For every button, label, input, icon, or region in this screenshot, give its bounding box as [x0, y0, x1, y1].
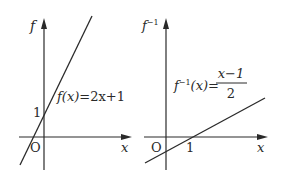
- left-equation-rhs: 2x+1: [90, 89, 125, 104]
- right-x-intercept-label: 1: [186, 140, 194, 155]
- right-plot: f−1 x O 1 f−1(x)= x−1 2: [141, 18, 268, 170]
- right-equation: f−1(x)= x−1 2: [173, 66, 247, 101]
- left-y-axis-arrow-icon: [41, 18, 47, 29]
- left-origin-label: O: [30, 140, 41, 155]
- function-inverse-diagram: f x O 1 f(x)=2x+1 f−1 x O 1 f−1(x)= x−1 …: [0, 0, 284, 179]
- right-equation-numerator: x−1: [218, 66, 245, 81]
- right-y-axis-arrow-icon: [163, 18, 169, 29]
- left-plot: f x O 1 f(x)=2x+1: [19, 16, 132, 170]
- left-equation-lhs: f(x): [56, 89, 79, 104]
- right-x-axis-label: x: [257, 140, 265, 155]
- right-equation-lhs-sup: −1: [179, 78, 191, 87]
- left-equation: f(x)=2x+1: [56, 89, 125, 104]
- right-origin-label: O: [151, 140, 162, 155]
- right-function-line: [145, 98, 265, 163]
- right-equation-lhs-arg: (x)=: [191, 78, 219, 93]
- right-equation-denominator: 2: [227, 86, 235, 101]
- left-equation-eq: =: [79, 89, 90, 104]
- right-y-axis-label-sup: −1: [147, 18, 159, 27]
- left-x-axis-label: x: [121, 140, 129, 155]
- right-y-axis-label: f−1: [141, 18, 159, 33]
- left-y-axis-label: f: [29, 18, 38, 34]
- left-y-intercept-label: 1: [33, 105, 41, 120]
- right-equation-lhs: f−1(x)=: [173, 78, 219, 93]
